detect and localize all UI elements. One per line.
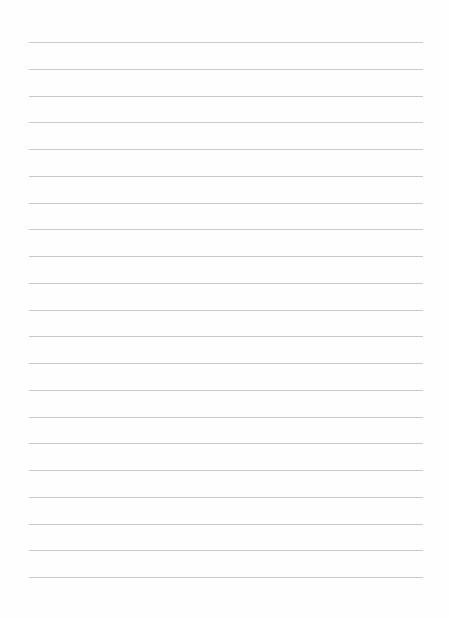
ruled-line	[29, 310, 423, 311]
ruled-line	[29, 524, 423, 525]
ruled-line	[29, 229, 423, 230]
ruled-line	[29, 497, 423, 498]
ruled-line	[29, 336, 423, 337]
ruled-line	[29, 283, 423, 284]
ruled-line	[29, 577, 423, 578]
ruled-line	[29, 149, 423, 150]
ruled-line	[29, 470, 423, 471]
lined-paper-page	[0, 0, 449, 618]
ruled-line	[29, 176, 423, 177]
ruled-line	[29, 69, 423, 70]
ruled-line	[29, 256, 423, 257]
ruled-line	[29, 42, 423, 43]
ruled-line	[29, 122, 423, 123]
ruled-line	[29, 203, 423, 204]
ruled-line	[29, 550, 423, 551]
ruled-line	[29, 363, 423, 364]
ruled-line	[29, 443, 423, 444]
ruled-line	[29, 390, 423, 391]
ruled-line	[29, 417, 423, 418]
ruled-line	[29, 96, 423, 97]
